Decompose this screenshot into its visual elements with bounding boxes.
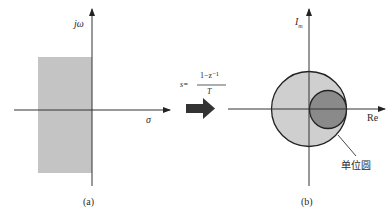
unit-circle-label: 单位圆 <box>341 157 371 172</box>
jomega-axis-label: jω <box>74 18 84 29</box>
sigma-axis-label: σ <box>146 114 151 125</box>
diagram-canvas <box>0 0 392 216</box>
unit-circle-leader-line <box>338 135 356 156</box>
re-axis-label: Re <box>367 112 378 123</box>
caption-a: (a) <box>83 196 94 207</box>
caption-b: (b) <box>301 196 313 207</box>
s-plane <box>14 9 170 186</box>
im-axis-label: Im <box>295 16 303 29</box>
formula-lhs: s= <box>180 80 189 89</box>
right-arrow-icon <box>186 98 215 119</box>
formula-denominator: T <box>207 87 211 96</box>
formula-numerator: 1−z⁻¹ <box>200 71 219 80</box>
diagram-s-to-z-mapping: jω σ (a) s= 1−z⁻¹ T Im Re 单位圆 (b) <box>0 0 392 216</box>
im-axis-label-sub: m <box>298 23 302 29</box>
stable-region <box>38 57 92 173</box>
